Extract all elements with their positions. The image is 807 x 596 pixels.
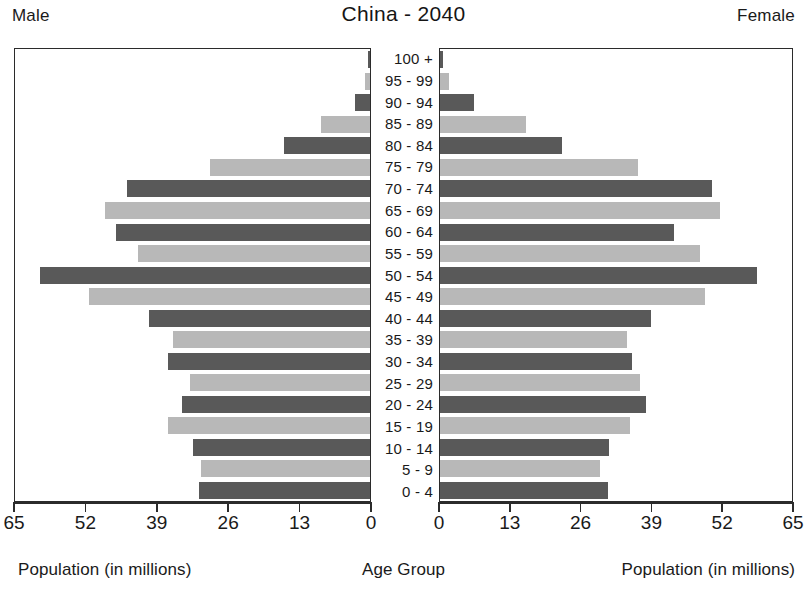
axis-tick-label: 52 xyxy=(75,512,96,534)
bar-row xyxy=(15,480,370,502)
male-bar-95-99 xyxy=(365,73,370,90)
female-bar-0-4 xyxy=(440,482,608,499)
age-group-label: 40 - 44 xyxy=(371,308,439,330)
bar-row xyxy=(15,372,370,394)
male-bar-50-54 xyxy=(40,267,370,284)
age-group-label: 5 - 9 xyxy=(371,459,439,481)
age-group-label: 60 - 64 xyxy=(371,221,439,243)
male-x-axis xyxy=(14,502,371,512)
bar-row xyxy=(440,329,792,351)
female-bar-15-19 xyxy=(440,417,630,434)
bar-row xyxy=(440,178,792,200)
male-bar-90-94 xyxy=(355,94,370,111)
male-bar-20-24 xyxy=(182,396,370,413)
bar-row xyxy=(440,264,792,286)
female-axis-line xyxy=(439,502,793,504)
bar-row xyxy=(440,71,792,93)
female-plot-area xyxy=(439,48,793,502)
age-group-label: 25 - 29 xyxy=(371,372,439,394)
age-group-label: 90 - 94 xyxy=(371,91,439,113)
bar-row xyxy=(15,221,370,243)
bar-row xyxy=(15,243,370,265)
bar-row xyxy=(15,135,370,157)
axis-tick xyxy=(651,502,653,512)
axis-tick xyxy=(227,502,229,512)
male-bar-80-84 xyxy=(284,137,370,154)
bar-row xyxy=(15,71,370,93)
chart-title: China - 2040 xyxy=(0,2,807,26)
axis-tick-label: 65 xyxy=(3,512,24,534)
bar-row xyxy=(15,49,370,71)
male-bar-15-19 xyxy=(168,417,370,434)
female-bar-10-14 xyxy=(440,439,609,456)
female-bar-50-54 xyxy=(440,267,757,284)
axis-tick-label: 39 xyxy=(641,512,662,534)
axis-tick xyxy=(580,502,582,512)
female-bar-80-84 xyxy=(440,137,562,154)
male-axis-line xyxy=(14,502,371,504)
bar-row xyxy=(440,49,792,71)
female-bar-40-44 xyxy=(440,310,651,327)
bar-row xyxy=(440,243,792,265)
age-group-label: 50 - 54 xyxy=(371,264,439,286)
female-bar-55-59 xyxy=(440,245,700,262)
age-group-label: 85 - 89 xyxy=(371,113,439,135)
bar-row xyxy=(440,415,792,437)
axis-tick xyxy=(792,502,794,512)
axis-tick xyxy=(509,502,511,512)
bar-row xyxy=(440,221,792,243)
male-bar-65-69 xyxy=(105,202,370,219)
bar-row xyxy=(15,394,370,416)
bar-row xyxy=(440,92,792,114)
female-bar-45-49 xyxy=(440,288,705,305)
axis-tick xyxy=(156,502,158,512)
age-group-label: 100 + xyxy=(371,48,439,70)
bar-row xyxy=(15,307,370,329)
bar-row xyxy=(440,437,792,459)
male-bar-85-89 xyxy=(321,116,370,133)
axis-tick xyxy=(13,502,15,512)
female-bar-35-39 xyxy=(440,331,627,348)
male-bar-70-74 xyxy=(127,180,370,197)
male-bar-group xyxy=(15,49,370,501)
bar-row xyxy=(15,157,370,179)
male-bar-35-39 xyxy=(173,331,370,348)
age-group-label: 15 - 19 xyxy=(371,416,439,438)
female-bar-95-99 xyxy=(440,73,449,90)
axis-tick xyxy=(721,502,723,512)
axis-tick-label: 52 xyxy=(712,512,733,534)
axis-tick xyxy=(85,502,87,512)
male-plot-area xyxy=(14,48,371,502)
female-bar-70-74 xyxy=(440,180,712,197)
female-bar-25-29 xyxy=(440,374,640,391)
male-bar-25-29 xyxy=(190,374,370,391)
axis-tick-label: 39 xyxy=(146,512,167,534)
bar-row xyxy=(440,135,792,157)
female-bar-100+ xyxy=(440,51,443,68)
bar-row xyxy=(15,437,370,459)
axis-tick-label: 26 xyxy=(218,512,239,534)
male-bar-30-34 xyxy=(168,353,370,370)
age-group-label-column: 100 +95 - 9990 - 9485 - 8980 - 8475 - 79… xyxy=(371,48,439,502)
age-group-label: 55 - 59 xyxy=(371,243,439,265)
bar-row xyxy=(15,264,370,286)
male-bar-75-79 xyxy=(210,159,370,176)
female-bar-group xyxy=(440,49,792,501)
age-group-label: 45 - 49 xyxy=(371,286,439,308)
bar-row xyxy=(440,200,792,222)
axis-tick-label: 65 xyxy=(782,512,803,534)
female-bar-60-64 xyxy=(440,224,674,241)
axis-tick xyxy=(299,502,301,512)
age-group-label: 65 - 69 xyxy=(371,199,439,221)
age-group-label: 35 - 39 xyxy=(371,329,439,351)
female-bar-20-24 xyxy=(440,396,646,413)
bar-row xyxy=(440,307,792,329)
female-tick-labels: 01326395265 xyxy=(439,512,793,538)
male-bar-55-59 xyxy=(138,245,370,262)
bar-row xyxy=(440,114,792,136)
axis-tick xyxy=(370,502,372,512)
male-bar-5-9 xyxy=(201,460,370,477)
bar-row xyxy=(440,157,792,179)
female-bar-90-94 xyxy=(440,94,474,111)
female-axis-caption: Population (in millions) xyxy=(622,560,795,580)
